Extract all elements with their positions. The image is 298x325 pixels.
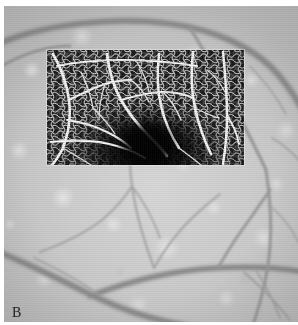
octa-angiography-inset <box>47 50 244 165</box>
panel-label: B <box>12 306 22 320</box>
figure-panel: B <box>0 0 298 325</box>
octa-scanline-texture <box>47 50 244 165</box>
